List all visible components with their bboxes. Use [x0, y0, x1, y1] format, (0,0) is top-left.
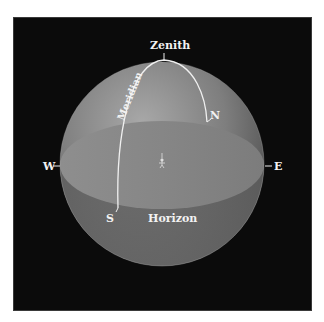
zenith-label: Zenith	[150, 40, 190, 51]
horizon-label: Horizon	[148, 213, 197, 224]
south-label: S	[106, 213, 114, 224]
east-label: E	[274, 161, 282, 172]
north-label: N	[210, 110, 220, 121]
west-label: W	[43, 161, 55, 172]
